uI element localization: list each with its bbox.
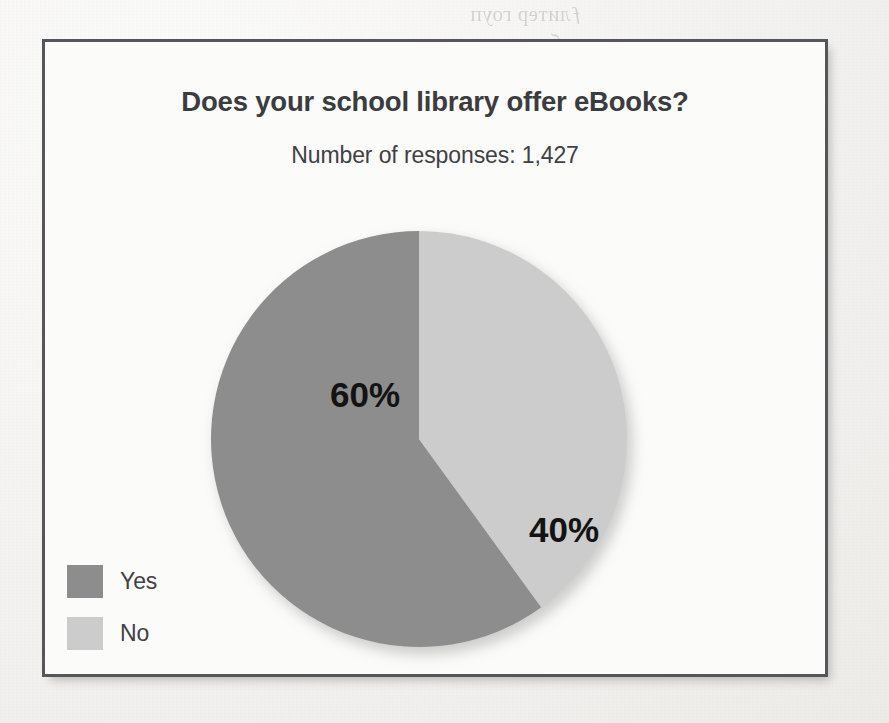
legend-item-no[interactable]: No [67,607,157,659]
chart-legend: Yes No [67,555,157,659]
pie-chart: 60% 40% [211,231,627,647]
pie-slice-label-no: 40% [529,510,599,549]
legend-swatch-no [67,617,103,650]
chart-canvas: Does your school library offer eBooks? N… [45,42,825,674]
chart-title: Does your school library offer eBooks? [45,86,825,118]
bleed-through-text: ƒлитер гоуп [470,2,582,27]
chart-frame: Does your school library offer eBooks? N… [42,39,828,677]
legend-label-yes: Yes [120,568,157,595]
legend-label-no: No [120,620,149,647]
pie-slice-label-yes: 60% [330,375,400,414]
chart-subtitle: Number of responses: 1,427 [45,142,825,169]
legend-swatch-yes [67,565,103,598]
legend-item-yes[interactable]: Yes [67,555,157,607]
pie-chart-svg: 60% 40% [211,231,627,647]
